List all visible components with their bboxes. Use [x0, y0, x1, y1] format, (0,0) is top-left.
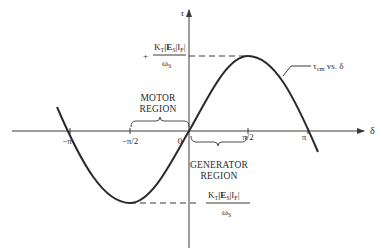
curve-label-leader [283, 66, 311, 76]
svg-text:KT|ES|IF|: KT|ES|IF| [208, 190, 240, 201]
svg-text:+: + [143, 51, 148, 61]
svg-text:ωS: ωS [162, 58, 171, 69]
generator-region-label-1: GENERATOR [190, 160, 249, 170]
curve-label: τcm vs. δ [313, 61, 344, 72]
torque-angle-diagram: τcm vs. δ τ δ −π −π/2 0 π/2 π + KT|ES|IF… [0, 0, 381, 252]
min-torque-label: KT|ES|IF| ωS [206, 190, 250, 218]
y-axis-label: τ [181, 8, 185, 18]
svg-text:KT|ES|IF|: KT|ES|IF| [154, 42, 186, 53]
max-torque-label: + KT|ES|IF| ωS [143, 42, 186, 69]
motor-region-label-1: MOTOR [140, 93, 176, 103]
motor-region-brace [131, 117, 189, 127]
tick-neg-pi: −π [62, 136, 72, 146]
torque-curve [57, 56, 318, 203]
tick-half-pi: π/2 [242, 132, 254, 142]
motor-region-label-2: REGION [139, 104, 176, 114]
generator-region-label-2: REGION [200, 171, 237, 181]
svg-text:ωS: ωS [222, 207, 231, 218]
generator-region-brace [191, 136, 247, 146]
tick-pi: π [302, 132, 307, 142]
tick-origin: 0 [178, 136, 183, 146]
tick-neg-half-pi: −π/2 [122, 136, 139, 146]
x-axis-label: δ [370, 125, 375, 136]
